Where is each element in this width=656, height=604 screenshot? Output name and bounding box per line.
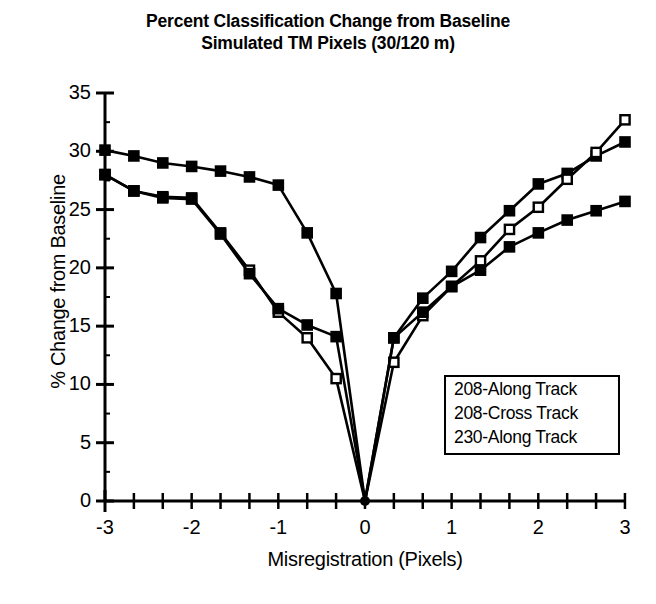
- legend-item: 230-Along Track: [446, 425, 618, 449]
- data-point-filled-square: [187, 162, 196, 171]
- data-point-filled-square: [620, 137, 629, 146]
- data-point-filled-square: [476, 266, 485, 275]
- data-point-filled-square: [505, 242, 514, 251]
- data-point-filled-square: [447, 282, 456, 291]
- y-tick-label: 35: [45, 82, 91, 102]
- data-point-filled-square: [505, 206, 514, 215]
- y-tick-label: 30: [45, 140, 91, 160]
- x-tick-label: 0: [345, 517, 385, 537]
- data-point-filled-square: [245, 172, 254, 181]
- data-point-filled-square: [216, 167, 225, 176]
- data-point-open-square: [563, 175, 572, 184]
- data-point-filled-square: [216, 229, 225, 238]
- y-tick-label: 0: [45, 490, 91, 510]
- data-point-filled-square: [245, 269, 254, 278]
- x-tick-label: 3: [605, 517, 645, 537]
- plot-area: [0, 0, 656, 604]
- x-tick-label: -2: [172, 517, 212, 537]
- data-point-filled-square: [274, 304, 283, 313]
- chart-legend: 208-Along Track 208-Cross Track 230-Alon…: [444, 375, 620, 455]
- data-point-open-square: [505, 225, 514, 234]
- data-point-filled-square: [620, 197, 629, 206]
- data-point-filled-square: [332, 289, 341, 298]
- data-point-filled-square: [563, 215, 572, 224]
- data-point-open-square: [476, 256, 485, 265]
- y-tick-label: 5: [45, 432, 91, 452]
- y-tick-label: 10: [45, 373, 91, 393]
- data-point-open-square: [592, 148, 601, 157]
- chart-figure: Percent Classification Change from Basel…: [0, 0, 656, 604]
- data-point-filled-square: [447, 267, 456, 276]
- data-point-filled-square: [389, 333, 398, 342]
- data-point-filled-square: [129, 186, 138, 195]
- data-point-filled-square: [418, 294, 427, 303]
- data-point-filled-square: [534, 179, 543, 188]
- data-point-filled-square: [158, 158, 167, 167]
- data-point-filled-square: [476, 233, 485, 242]
- data-point-filled-square: [303, 228, 312, 237]
- x-tick-label: -1: [258, 517, 298, 537]
- data-point-open-square: [332, 374, 341, 383]
- data-point-filled-square: [129, 151, 138, 160]
- legend-item: 208-Along Track: [446, 377, 618, 401]
- data-point-origin: [360, 496, 370, 506]
- legend-item: 208-Cross Track: [446, 401, 618, 425]
- data-point-filled-square: [100, 170, 109, 179]
- data-point-filled-square: [332, 332, 341, 341]
- data-point-open-square: [620, 115, 629, 124]
- y-tick-label: 25: [45, 199, 91, 219]
- data-point-filled-square: [534, 228, 543, 237]
- x-tick-label: -3: [85, 517, 125, 537]
- data-point-filled-square: [592, 206, 601, 215]
- data-point-open-square: [303, 333, 312, 342]
- x-tick-label: 2: [518, 517, 558, 537]
- data-point-start-marker: [100, 145, 111, 156]
- y-tick-label: 15: [45, 315, 91, 335]
- data-point-filled-square: [418, 308, 427, 317]
- y-tick-label: 20: [45, 257, 91, 277]
- data-point-filled-square: [158, 193, 167, 202]
- data-point-filled-square: [187, 194, 196, 203]
- data-point-open-square: [534, 203, 543, 212]
- data-point-filled-square: [274, 180, 283, 189]
- data-point-filled-square: [303, 320, 312, 329]
- x-tick-label: 1: [432, 517, 472, 537]
